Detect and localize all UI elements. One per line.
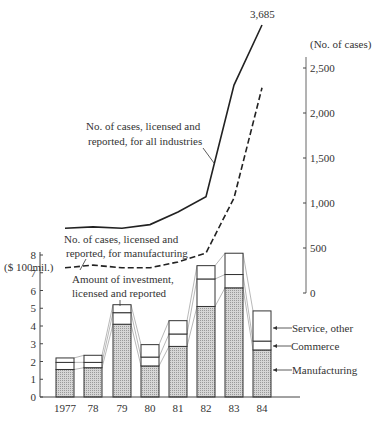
left-tick-label: 6 [31, 285, 37, 297]
left-tick-label: 2 [31, 356, 37, 368]
legend-service-other: Service, other [292, 322, 353, 334]
bar-segment-manufacturing [225, 288, 243, 397]
manufacturing-cases-label-2: reported, for manufacturing [66, 247, 188, 259]
peak-value-label: 3,685 [250, 8, 275, 20]
left-tick-label: 3 [31, 338, 37, 350]
bar-segment-manufacturing [56, 369, 74, 397]
bar-segment-service-other [113, 305, 131, 313]
right-y-axis: 05001,0001,5002,0002,500 [303, 57, 335, 299]
x-tick-label: 79 [117, 402, 129, 414]
legend-manufacturing: Manufacturing [292, 364, 358, 376]
bar-segment-commerce [197, 279, 215, 307]
investment-and-cases-chart: 012345678 05001,0001,5002,0002,500 19777… [0, 0, 377, 426]
right-tick-label: 2,000 [310, 107, 335, 119]
left-tick-label: 1 [31, 373, 37, 385]
right-tick-label: 2,500 [310, 62, 335, 74]
right-tick-label: 500 [310, 242, 327, 254]
manufacturing-cases-pointer [80, 259, 86, 270]
bar-segment-manufacturing [84, 368, 102, 397]
left-tick-label: 8 [31, 249, 37, 261]
left-tick-label: 0 [31, 391, 37, 403]
all-industries-label-1: No. of cases, licensed and [86, 120, 201, 132]
right-axis-unit: (No. of cases) [310, 38, 372, 51]
bar-segment-commerce [225, 275, 243, 288]
bar-segment-commerce [56, 362, 74, 369]
bar-segment-service-other [56, 358, 74, 362]
x-tick-label: 84 [257, 402, 269, 414]
x-tick-label: 81 [173, 402, 184, 414]
x-axis-labels: 197778798081828384 [54, 402, 268, 414]
x-tick-label: 80 [145, 402, 157, 414]
bar-segment-manufacturing [141, 366, 159, 397]
bar-segment-manufacturing [197, 306, 215, 397]
all-industries-label-2: reported, for all industries [88, 135, 202, 147]
bar-segment-service-other [84, 355, 102, 362]
x-tick-label: 78 [88, 402, 100, 414]
bar-segment-manufacturing [113, 324, 131, 397]
bar-segment-commerce [253, 341, 271, 350]
bar-segment-manufacturing [169, 346, 187, 397]
bar-segment-service-other [225, 253, 243, 274]
right-tick-label: 1,500 [310, 152, 335, 164]
investment-label-1: Amount of investment, [72, 273, 174, 285]
x-tick-label: 82 [201, 402, 212, 414]
bar-segment-commerce [113, 313, 131, 325]
left-tick-label: 5 [31, 302, 37, 314]
bar-segment-commerce [84, 362, 102, 367]
right-tick-label: 1,000 [310, 197, 335, 209]
x-tick-label: 1977 [54, 402, 77, 414]
investment-label-2: licensed and reported [72, 287, 167, 299]
left-tick-label: 4 [31, 320, 37, 332]
bar-segment-service-other [169, 321, 187, 334]
right-tick-label: 0 [310, 287, 316, 299]
all-industries-pointer [203, 148, 214, 163]
bar-segment-commerce [141, 357, 159, 366]
bar-segment-manufacturing [253, 350, 271, 397]
bar-segment-commerce [169, 334, 187, 346]
bar-segment-service-other [141, 345, 159, 357]
legend-commerce: Commerce [291, 340, 339, 352]
x-tick-label: 83 [229, 402, 241, 414]
legend: Service, other Commerce Manufacturing [273, 322, 358, 376]
bar-segment-service-other [197, 266, 215, 279]
bar-segment-service-other [253, 311, 271, 341]
left-axis-unit: ($ 100mil.) [4, 261, 54, 274]
manufacturing-cases-label-1: No. of cases, licensed and [64, 233, 179, 245]
